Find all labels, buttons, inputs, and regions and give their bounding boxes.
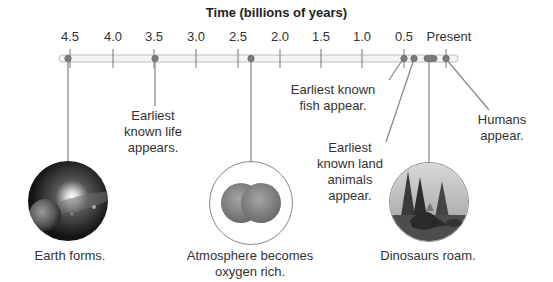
dinosaur-forest-image <box>389 162 469 242</box>
caption-earth-forms: Earth forms. <box>35 248 106 264</box>
marker-earth <box>65 55 71 61</box>
caption-dinosaurs: Dinosaurs roam. <box>380 248 475 264</box>
early-earth-image <box>28 161 108 241</box>
marker-land <box>411 55 417 61</box>
timeline-graphic <box>0 0 553 282</box>
caption-humans: Humans appear. <box>478 112 526 144</box>
caption-land-animals: Earliest known land animals appear. <box>317 140 383 204</box>
dinosaur-forest-icon <box>390 163 468 241</box>
connector-humans <box>446 59 489 110</box>
marker-fish <box>401 55 407 61</box>
caption-oxygen: Atmosphere becomes oxygen rich. <box>187 248 313 280</box>
marker-humans <box>443 55 449 61</box>
timeline-bar <box>59 55 458 62</box>
connector-land <box>386 59 414 142</box>
oxygen-molecule-image <box>209 161 293 245</box>
early-earth-icon <box>28 161 108 241</box>
marker-oxygen <box>248 55 254 61</box>
oxygen-molecule-icon <box>210 162 292 244</box>
caption-earliest-life: Earliest known life appears. <box>124 108 182 156</box>
marker-dinos-range <box>424 56 437 62</box>
marker-life <box>152 55 158 61</box>
caption-fish: Earliest known fish appear. <box>291 82 376 114</box>
